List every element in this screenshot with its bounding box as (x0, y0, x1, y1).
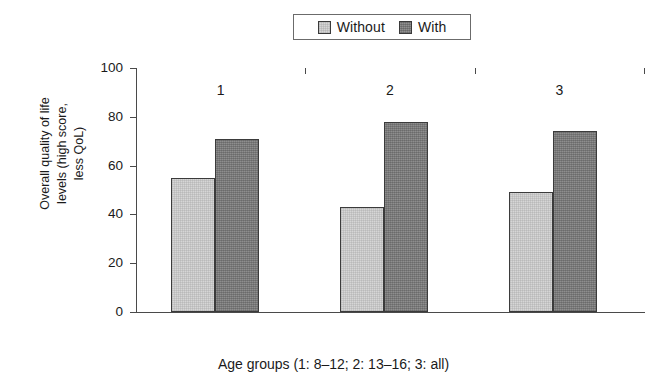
bar-without-group-2 (340, 207, 384, 312)
legend-label-without: Without (337, 20, 385, 34)
x-tick-mark (136, 68, 137, 74)
y-tick-mark (130, 166, 136, 167)
y-tick-mark (130, 214, 136, 215)
x-tick-label: 2 (386, 82, 394, 98)
chart-legend: Without With (293, 14, 471, 40)
bar-without-group-1 (171, 178, 215, 312)
y-axis-title-line-1: Overall quality of life (37, 29, 54, 279)
x-tick-mark (475, 68, 476, 74)
legend-item-with: With (399, 20, 446, 34)
y-tick-mark (130, 117, 136, 118)
x-axis-title: Age groups (1: 8–12; 2: 13–16; 3: all) (0, 355, 667, 373)
y-tick-label: 0 (115, 303, 123, 320)
y-tick-label: 80 (108, 108, 123, 125)
y-axis-title-line-2: levels (high score, (54, 29, 71, 279)
legend-swatch-without-icon (318, 21, 331, 34)
y-tick: 80 (136, 117, 137, 118)
legend-label-with: With (418, 20, 446, 34)
x-tick-label: 3 (555, 82, 563, 98)
bar-with-group-3 (553, 131, 597, 312)
y-tick-label: 60 (108, 157, 123, 174)
bar-chart-figure: Without With Overall quality of life lev… (0, 0, 667, 386)
y-tick: 20 (136, 263, 137, 264)
x-tick-mark (305, 68, 306, 74)
bar-with-group-2 (384, 122, 428, 312)
y-tick: 40 (136, 214, 137, 215)
plot-area: 100806040200 123 (136, 68, 644, 312)
x-axis-line (136, 312, 645, 313)
x-tick-mark (644, 68, 645, 74)
y-tick-label: 40 (108, 205, 123, 222)
y-tick-label: 100 (100, 59, 123, 76)
legend-swatch-with-icon (399, 21, 412, 34)
x-tick-label: 1 (217, 82, 225, 98)
bar-without-group-3 (509, 192, 553, 312)
y-tick: 0 (136, 312, 137, 313)
y-axis-title: Overall quality of life levels (high sco… (37, 29, 88, 279)
y-axis-title-line-3: less QoL) (71, 29, 88, 279)
y-tick-mark (130, 263, 136, 264)
bar-with-group-1 (215, 139, 259, 312)
legend-item-without: Without (318, 20, 385, 34)
y-tick: 60 (136, 166, 137, 167)
y-tick-label: 20 (108, 254, 123, 271)
y-tick-mark (130, 312, 136, 313)
